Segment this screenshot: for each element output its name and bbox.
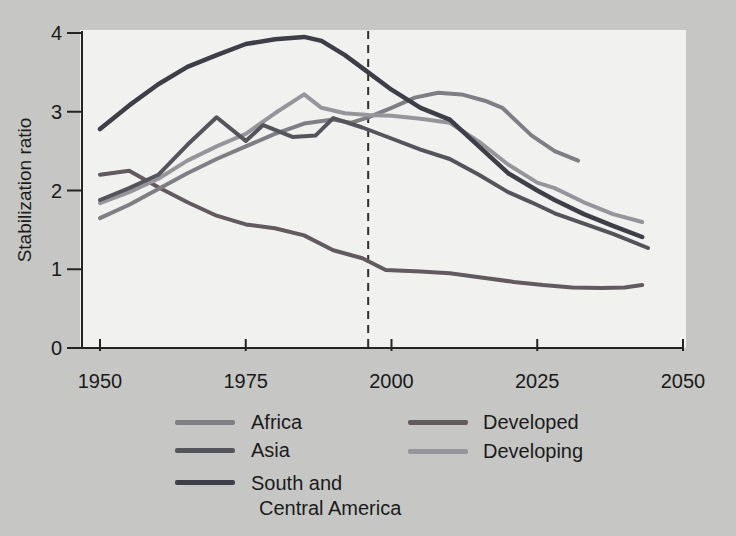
x-tick-label-2000: 2000 (369, 370, 414, 392)
y-axis-title: Stabilization ratio (14, 118, 36, 263)
x-tick-label-1950: 1950 (78, 370, 123, 392)
x-tick-label-2025: 2025 (515, 370, 560, 392)
chart-canvas: 0123419501975200020252050 (0, 0, 736, 536)
figure-stabilization-ratio-chart: 0123419501975200020252050 Stabilization … (0, 0, 736, 536)
y-tick-label-4: 4 (51, 22, 62, 44)
x-tick-label-2050: 2050 (661, 370, 706, 392)
x-tick-label-1975: 1975 (224, 370, 269, 392)
y-tick-label-0: 0 (51, 337, 62, 359)
y-tick-label-2: 2 (51, 180, 62, 202)
y-tick-label-1: 1 (51, 258, 62, 280)
y-tick-label-3: 3 (51, 101, 62, 123)
